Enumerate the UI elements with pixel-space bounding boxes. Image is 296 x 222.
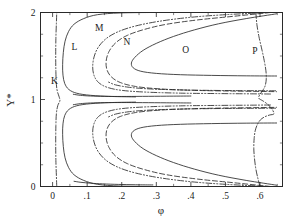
x-tick-label: 0	[50, 191, 55, 201]
x-tick-label: .6	[256, 191, 263, 201]
y-tick-label: 1	[31, 95, 36, 105]
x-tick-label: .3	[153, 191, 160, 201]
x-tick-label: .1	[84, 191, 91, 201]
x-tick-label: .4	[187, 191, 194, 201]
curve-label-m: M	[95, 23, 104, 33]
curve-label-l: L	[71, 42, 77, 52]
curve-label-n: N	[123, 37, 130, 47]
x-axis-title: φ	[158, 204, 164, 216]
y-axis-title: Y*	[4, 93, 16, 106]
curve-label-o: O	[182, 45, 189, 55]
curve-label-p: P	[252, 46, 257, 56]
figure-container: 0.1.2.3.4.5.6 012 KMLNOP φ Y*	[0, 0, 296, 222]
x-tick-label: .2	[118, 191, 125, 201]
y-tick-label: 2	[31, 8, 36, 18]
curve-label-k: K	[51, 76, 58, 86]
x-tick-label: .5	[222, 191, 229, 201]
contour-plot: 0.1.2.3.4.5.6 012 KMLNOP φ Y*	[0, 0, 296, 222]
y-tick-label: 0	[31, 182, 36, 192]
